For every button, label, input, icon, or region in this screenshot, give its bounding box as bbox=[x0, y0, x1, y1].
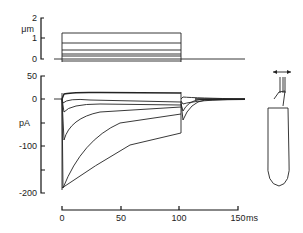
tick-50: 50 bbox=[27, 71, 37, 81]
tick-minus-200: -200 bbox=[19, 188, 37, 198]
stimulus-y-axis bbox=[41, 18, 45, 59]
current-traces bbox=[54, 92, 245, 190]
xtick-0: 0 bbox=[59, 213, 64, 223]
time-axis: 0 50 100 150 ms bbox=[59, 206, 258, 223]
tick-zero: 0 bbox=[32, 94, 37, 104]
stimulus-panel: 2 1 0 μm bbox=[21, 13, 245, 64]
current-y-axis bbox=[41, 76, 45, 193]
xtick-100: 100 bbox=[171, 213, 186, 223]
hair-cell-inset bbox=[268, 70, 291, 186]
tick-0: 0 bbox=[32, 54, 37, 64]
time-unit: ms bbox=[246, 213, 258, 223]
tick-1: 1 bbox=[32, 33, 37, 43]
current-unit: pA bbox=[19, 118, 30, 128]
tick-minus-100: -100 bbox=[19, 141, 37, 151]
figure: 2 1 0 μm 50 0 -100 -200 pA bbox=[0, 0, 303, 233]
double-arrow-icon bbox=[273, 70, 291, 74]
stimulus-unit: μm bbox=[21, 24, 34, 34]
xtick-150: 150 bbox=[230, 213, 245, 223]
current-panel: 50 0 -100 -200 pA bbox=[19, 71, 245, 198]
stimulus-steps bbox=[54, 33, 245, 62]
xtick-50: 50 bbox=[116, 213, 126, 223]
tick-2: 2 bbox=[32, 13, 37, 23]
